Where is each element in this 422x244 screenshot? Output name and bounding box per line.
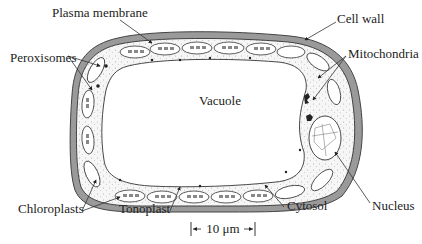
label-cytosol: Cytosol [287, 198, 328, 213]
label-nucleus: Nucleus [372, 198, 415, 213]
label-plasma-membrane: Plasma membrane [52, 5, 148, 20]
label-cell-wall: Cell wall [337, 11, 385, 26]
label-vacuole: Vacuole [199, 93, 241, 108]
plant-cell-diagram: Plasma membrane Cell wall Peroxisomes Mi… [0, 0, 422, 244]
vacuole [102, 59, 306, 186]
label-peroxisomes: Peroxisomes [10, 50, 76, 65]
scale-bar-label: 10 μm [206, 221, 239, 236]
label-mitochondria: Mitochondria [348, 46, 419, 61]
scale-bar: 10 μm [191, 221, 255, 236]
label-chloroplasts: Chloroplasts [18, 201, 84, 216]
label-tonoplast: Tonoplast [119, 201, 170, 216]
